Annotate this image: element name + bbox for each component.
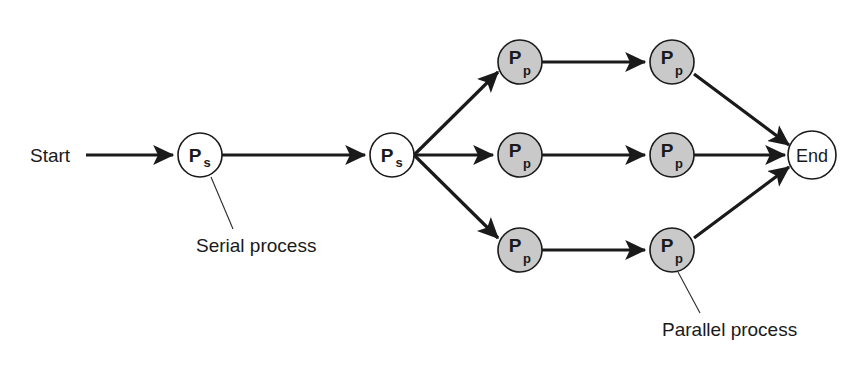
- parallel-node-label-main: P: [509, 235, 522, 256]
- parallel-node-label-sub: p: [675, 63, 683, 78]
- diagram-canvas: P s P s P p P p P p P p: [0, 0, 854, 375]
- process-flow-diagram: P s P s P p P p P p P p: [0, 0, 854, 375]
- serial-node-label-main: P: [381, 145, 394, 166]
- parallel-node-pp-bot-left[interactable]: P p: [498, 228, 542, 272]
- serial-node-label-sub: s: [203, 155, 210, 170]
- parallel-node-pp-mid-right[interactable]: P p: [650, 133, 694, 177]
- edge-ps2-to-pp-bot-left: [414, 155, 498, 238]
- serial-node-label-main: P: [189, 145, 202, 166]
- parallel-process-caption: Parallel process: [662, 319, 797, 340]
- parallel-node-label-sub: p: [523, 156, 531, 171]
- parallel-node-label-main: P: [509, 47, 522, 68]
- parallel-node-label-main: P: [661, 47, 674, 68]
- parallel-node-label-main: P: [661, 235, 674, 256]
- serial-node-ps2[interactable]: P s: [370, 133, 414, 177]
- parallel-node-label-sub: p: [523, 63, 531, 78]
- edge-pp-bot-right-to-end: [694, 167, 789, 238]
- end-node-label: End: [796, 146, 828, 166]
- parallel-node-pp-top-left[interactable]: P p: [498, 40, 542, 84]
- end-node[interactable]: End: [788, 131, 836, 179]
- parallel-node-label-main: P: [661, 140, 674, 161]
- parallel-node-pp-top-right[interactable]: P p: [650, 40, 694, 84]
- edge-ps2-to-pp-top-left: [414, 72, 498, 155]
- serial-process-caption: Serial process: [196, 235, 316, 256]
- leader-line-parallel: [678, 272, 700, 313]
- parallel-node-label-sub: p: [523, 251, 531, 266]
- edge-pp-top-right-to-end: [694, 74, 789, 145]
- parallel-node-label-main: P: [509, 140, 522, 161]
- parallel-node-label-sub: p: [675, 251, 683, 266]
- parallel-node-pp-bot-right[interactable]: P p: [650, 228, 694, 272]
- serial-node-ps1[interactable]: P s: [178, 133, 222, 177]
- start-label: Start: [30, 145, 71, 166]
- leader-line-serial: [211, 177, 233, 229]
- parallel-node-pp-mid-left[interactable]: P p: [498, 133, 542, 177]
- serial-node-label-sub: s: [395, 155, 402, 170]
- parallel-node-label-sub: p: [675, 156, 683, 171]
